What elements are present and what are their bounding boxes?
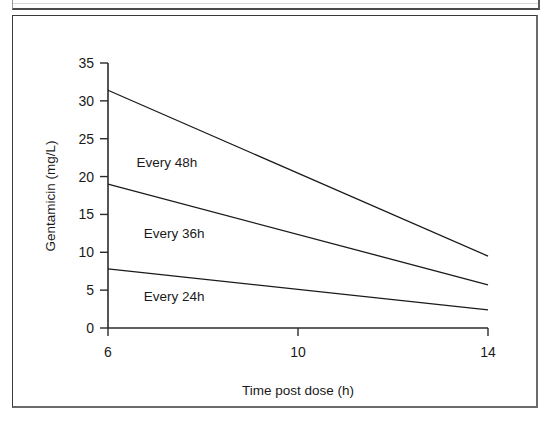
series-label-every-24h: Every 24h bbox=[144, 289, 205, 304]
y-tick-label-35: 35 bbox=[78, 55, 94, 71]
y-tick-label-25: 25 bbox=[78, 131, 94, 147]
cutoff-top-strip bbox=[12, 0, 540, 10]
y-tick-label-10: 10 bbox=[78, 244, 94, 260]
series-labels: Every 48h Every 36h Every 24h bbox=[137, 155, 205, 303]
line-chart-plot: 35 30 25 20 15 10 5 0 6 10 14 Time post … bbox=[13, 16, 539, 409]
y-tick-label-30: 30 bbox=[78, 93, 94, 109]
y-tick-label-0: 0 bbox=[86, 320, 94, 336]
figure-frame: 35 30 25 20 15 10 5 0 6 10 14 Time post … bbox=[12, 15, 538, 408]
y-axis-title: Gentamicin (mg/L) bbox=[43, 140, 58, 251]
y-tick-label-20: 20 bbox=[78, 169, 94, 185]
y-axis-ticks bbox=[100, 63, 108, 328]
chart-area: 35 30 25 20 15 10 5 0 6 10 14 Time post … bbox=[13, 16, 539, 409]
y-tick-label-15: 15 bbox=[78, 206, 94, 222]
cutoff-top-strip-rule bbox=[13, 3, 538, 4]
series-label-every-36h: Every 36h bbox=[144, 226, 205, 241]
x-tick-label-6: 6 bbox=[104, 344, 112, 360]
x-tick-label-14: 14 bbox=[480, 344, 496, 360]
x-axis-title: Time post dose (h) bbox=[242, 383, 354, 398]
x-tick-label-10: 10 bbox=[290, 344, 306, 360]
y-tick-label-5: 5 bbox=[86, 282, 94, 298]
series-lines bbox=[108, 90, 488, 310]
x-axis-ticks bbox=[108, 328, 488, 336]
series-label-every-48h: Every 48h bbox=[137, 155, 198, 170]
